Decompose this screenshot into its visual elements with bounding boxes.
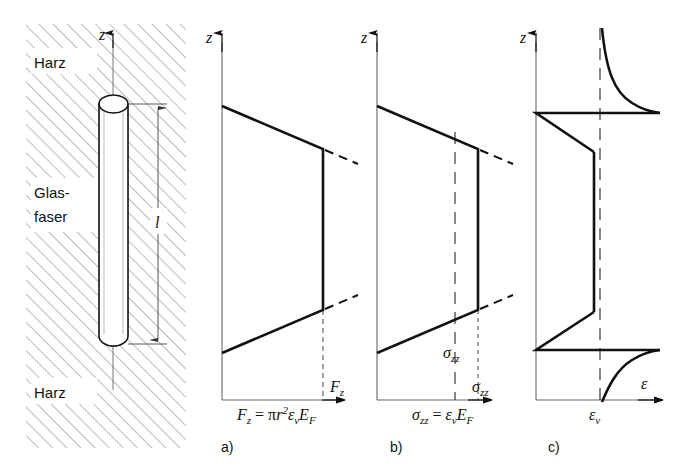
- region-label-harz-top: Harz: [34, 54, 66, 71]
- region-label-glasfaser-line1: Glas-: [34, 184, 70, 201]
- panel-c-upper-resin-decay-curve: [602, 28, 660, 113]
- region-label-glasfaser-line2: faser: [34, 208, 67, 225]
- panel-b-stress-distribution-curve: [377, 106, 478, 353]
- fiber-cylinder-top-ellipse: [99, 95, 128, 113]
- panel-b-extrapolation-upper-dashed: [480, 150, 513, 164]
- panel-b-y-axis-label: z: [360, 29, 368, 46]
- panel-a-extrapolation-upper-dashed: [325, 150, 358, 164]
- panel-c-caption: c): [548, 439, 560, 455]
- panel-c-x-axis-label: ε: [641, 375, 648, 392]
- panel-b-dashed-line-label: σzz: [443, 344, 460, 364]
- fiber-schematic: Harz Glas- faser Harz z l: [26, 24, 186, 448]
- region-label-harz-bottom: Harz: [34, 384, 66, 401]
- panel-c-top-step-and-slope: [536, 113, 660, 152]
- panel-c: z ε εv c): [519, 28, 663, 455]
- fiber-cylinder-body: [99, 104, 128, 346]
- panel-c-dashed-line-label: εv: [589, 406, 600, 426]
- panel-a-formula: Fz = πr2εvEF: [236, 404, 316, 426]
- panel-a-caption: a): [221, 439, 233, 455]
- panel-b-extrapolation-lower-dashed: [480, 295, 513, 309]
- technical-figure: Harz Glas- faser Harz z l z Fz: [0, 0, 699, 472]
- panel-a-extrapolation-lower-dashed: [325, 295, 358, 309]
- panel-b-x-axis-label: σzz: [472, 378, 489, 398]
- panel-a-y-axis-label: z: [205, 29, 213, 46]
- panel-c-bottom-slope-and-step: [536, 312, 660, 350]
- dimension-label-length: l: [155, 214, 160, 231]
- panel-a: z Fz Fz = πr2εvEF a): [205, 29, 358, 455]
- panel-b-caption: b): [390, 439, 402, 455]
- panel-c-y-axis-label: z: [519, 29, 527, 46]
- schematic-z-axis-label: z: [98, 26, 106, 43]
- panel-a-x-axis-label: Fz: [329, 378, 345, 398]
- panel-b: z σzz σzz σzz = εvEF b): [360, 29, 513, 455]
- panel-a-force-distribution-curve: [222, 106, 323, 353]
- panel-b-formula: σzz = εvEF: [412, 406, 473, 426]
- panel-c-lower-resin-decay-curve: [602, 350, 660, 402]
